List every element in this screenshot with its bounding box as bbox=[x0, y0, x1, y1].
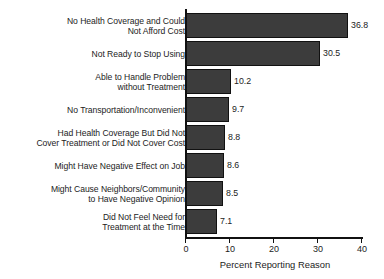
bar-3 bbox=[186, 97, 229, 122]
x-tick-label-3: 30 bbox=[313, 244, 323, 255]
bar-value-2: 10.2 bbox=[234, 76, 251, 86]
bar-4 bbox=[186, 125, 225, 150]
x-tick-label-0: 0 bbox=[183, 244, 188, 255]
category-label-3: No Transportation/Inconvenient bbox=[67, 105, 185, 115]
x-tick-3 bbox=[317, 238, 318, 243]
category-label-1: Not Ready to Stop Using bbox=[92, 49, 185, 59]
bar-value-7: 7.1 bbox=[220, 216, 232, 226]
bar-5 bbox=[186, 153, 224, 178]
bar-value-6: 8.5 bbox=[226, 188, 238, 198]
bar-value-0: 36.8 bbox=[351, 20, 368, 30]
category-label-5: Might Have Negative Effect on Job bbox=[54, 161, 185, 171]
y-axis-line bbox=[185, 9, 187, 239]
x-tick-4 bbox=[361, 238, 362, 243]
bar-7 bbox=[186, 209, 217, 234]
bar-0 bbox=[186, 13, 348, 38]
bar-chart: No Health Coverage and Could Not Afford … bbox=[0, 0, 384, 279]
category-label-4: Had Health Coverage But Did Not Cover Tr… bbox=[36, 128, 185, 149]
x-tick-label-4: 40 bbox=[357, 244, 367, 255]
x-tick-label-1: 10 bbox=[225, 244, 235, 255]
x-tick-1 bbox=[229, 238, 230, 243]
bar-value-3: 9.7 bbox=[232, 104, 244, 114]
bar-6 bbox=[186, 181, 223, 206]
x-axis-title: Percent Reporting Reason bbox=[186, 259, 364, 270]
bar-value-1: 30.5 bbox=[323, 48, 340, 58]
category-label-0: No Health Coverage and Could Not Afford … bbox=[67, 16, 185, 37]
x-tick-label-2: 20 bbox=[269, 244, 279, 255]
bar-1 bbox=[186, 41, 320, 66]
x-tick-0 bbox=[185, 238, 186, 243]
category-label-6: Might Cause Neighbors/Community to Have … bbox=[51, 184, 185, 205]
category-label-2: Able to Handle Problem without Treatment bbox=[95, 72, 185, 93]
bar-2 bbox=[186, 69, 231, 94]
bar-value-5: 8.6 bbox=[227, 160, 239, 170]
bar-value-4: 8.8 bbox=[228, 132, 240, 142]
x-tick-2 bbox=[273, 238, 274, 243]
category-label-7: Did Not Feel Need for Treatment at the T… bbox=[102, 212, 185, 233]
